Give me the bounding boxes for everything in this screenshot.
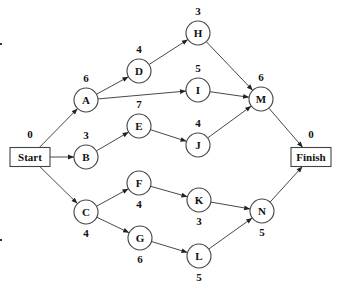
edge-start-to-c [40,167,78,204]
node-label: D [135,65,143,77]
duration-label: 6 [83,72,89,84]
edge-f-to-k [151,186,188,196]
edge-n-to-finish [270,167,302,203]
edge-d-to-h [149,39,188,64]
node-g: G6 [128,226,152,265]
duration-label: 6 [137,253,143,265]
edge-c-to-g [97,217,129,233]
duration-label: 7 [136,98,142,110]
node-c: C4 [74,200,98,239]
node-label: A [82,94,90,106]
node-label: Start [18,151,42,163]
node-d: D4 [127,43,151,83]
edge-a-to-d [97,77,129,94]
duration-label: 0 [27,128,33,140]
node-label: M [256,93,267,105]
node-start: Start0 [10,128,50,167]
edge-j-to-m [208,106,252,138]
duration-label: 3 [196,215,202,227]
node-e: E7 [127,98,151,138]
node-label: F [136,177,143,189]
node-n: N5 [250,199,274,238]
edge-start-to-a [39,109,77,148]
node-label: E [135,120,142,132]
edge-l-to-n [209,218,252,249]
nodes-layer: Start0A6B3C4D4E7F4G6H3I5J4K3L5M6N5Finish… [10,5,331,283]
duration-label: 3 [83,129,89,141]
node-f: F4 [127,171,151,210]
node-a: A6 [74,72,98,112]
node-label: L [195,250,202,262]
node-label: C [82,206,90,218]
node-label: G [136,232,145,244]
edge-b-to-e [96,132,128,151]
node-label: I [196,84,200,96]
node-label: B [82,151,90,163]
node-label: Finish [296,151,325,163]
edge-h-to-m [206,42,252,91]
edge-i-to-m [210,92,249,98]
node-k: K3 [187,188,211,227]
node-h: H3 [186,5,210,45]
duration-label: 3 [195,5,201,17]
duration-label: 4 [83,227,89,239]
duration-label: 0 [308,128,314,140]
node-finish: Finish0 [291,128,331,167]
duration-label: 5 [259,226,265,238]
edge-c-to-f [97,189,129,206]
node-j: J4 [186,117,210,157]
duration-label: 5 [195,62,201,74]
node-label: H [194,27,203,39]
edge-e-to-j [150,130,186,142]
node-i: I5 [186,62,210,102]
duration-label: 6 [258,71,264,83]
margin-mark-top [0,43,2,45]
node-label: K [195,194,204,206]
duration-label: 4 [136,198,142,210]
edge-m-to-finish [269,108,303,147]
duration-label: 4 [195,117,201,129]
node-b: B3 [74,129,98,169]
node-label: N [258,205,266,217]
edge-a-to-i [98,91,186,99]
margin-mark-bottom [0,239,2,241]
edge-g-to-l [151,242,187,253]
project-network-diagram: Start0A6B3C4D4E7F4G6H3I5J4K3L5M6N5Finish… [0,0,339,289]
node-m: M6 [249,71,273,111]
duration-label: 5 [196,271,202,283]
edge-k-to-n [211,202,250,209]
node-label: J [195,139,201,151]
duration-label: 4 [136,43,142,55]
node-l: L5 [187,244,211,283]
